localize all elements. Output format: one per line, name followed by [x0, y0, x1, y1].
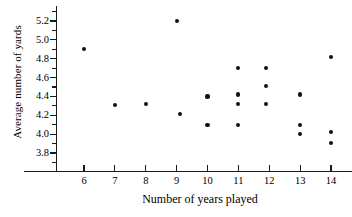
x-axis-tick-label: 8: [133, 176, 159, 187]
x-axis-tick-label: 14: [318, 176, 344, 187]
x-axis-tick-label: 9: [164, 176, 190, 187]
x-axis-tick-label: 11: [225, 176, 251, 187]
x-axis-tick-label: 7: [102, 176, 128, 187]
x-axis-title: Number of years played: [60, 192, 340, 207]
x-axis-tick-label: 13: [287, 176, 313, 187]
x-axis-tick-labels: 67891011121314: [0, 0, 352, 217]
x-axis-tick-label: 10: [195, 176, 221, 187]
x-axis-tick-label: 12: [256, 176, 282, 187]
scatter-plot: Average number of yards 3.84.04.24.44.64…: [0, 0, 352, 217]
x-axis-tick-label: 6: [71, 176, 97, 187]
